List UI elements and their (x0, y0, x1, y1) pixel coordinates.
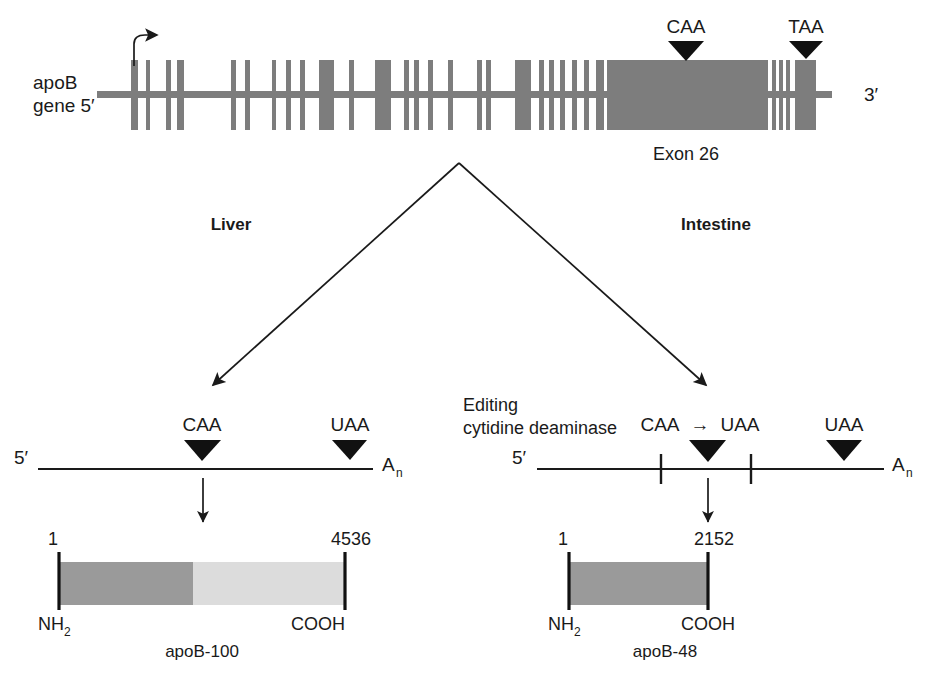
apob48-start-number: 1 (558, 529, 568, 549)
branch-arrows: Liver Intestine (211, 163, 751, 385)
exon-bar (146, 60, 150, 130)
apob48-c-terminus-label: COOH (681, 614, 735, 634)
gene-caa-triangle-icon (668, 41, 704, 61)
gene-caa-label: CAA (666, 16, 705, 37)
branch-arrow-liver (213, 163, 459, 385)
apob100-bar-dark-segment (59, 562, 193, 605)
editing-enzyme-label-line2: cytidine deaminase (463, 418, 617, 438)
liver-uaa-triangle-icon (332, 440, 367, 460)
exon-bar (549, 60, 554, 130)
apob100-start-number: 1 (48, 529, 58, 549)
gene-taa-label: TAA (788, 16, 824, 37)
intestine-edited-codon-triangle-icon (689, 440, 726, 462)
exon-bar (539, 60, 544, 130)
gene-diagram: CAA TAA apoB gene 5′ 3′ Exon 26 (33, 16, 879, 164)
exon-bar (560, 60, 565, 130)
liver-caa-triangle-icon (184, 440, 221, 461)
intestine-edit-arrow-icon: → (691, 414, 710, 435)
exon-bar (486, 60, 491, 130)
liver-polya-label: A (382, 454, 395, 475)
intestine-pathway: Editing cytidine deaminase 5′ A n CAA → … (463, 395, 913, 661)
exon-bar (572, 60, 577, 130)
intestine-polya-subscript: n (906, 466, 913, 480)
liver-five-prime-label: 5′ (14, 447, 29, 468)
gene-three-prime-label: 3′ (864, 84, 879, 105)
apob48-n-terminus-label: NH (548, 614, 574, 634)
exon-bar (779, 60, 783, 130)
exon-bar (319, 60, 334, 130)
diagram-canvas: CAA TAA apoB gene 5′ 3′ Exon 26 Liver In… (0, 0, 925, 673)
intestine-edit-to-label: UAA (720, 414, 759, 435)
exon-bar (272, 60, 276, 130)
apob48-n-terminus-subscript: 2 (574, 625, 581, 639)
gene-taa-triangle-icon (789, 41, 823, 59)
apob100-n-terminus-label: NH (38, 614, 64, 634)
exon-bar (245, 60, 250, 130)
exon-bar (795, 60, 816, 130)
exon-bar (231, 60, 236, 130)
liver-uaa-label: UAA (330, 414, 369, 435)
exon-bar (404, 60, 409, 130)
branch-label-liver: Liver (211, 215, 252, 234)
branch-label-intestine: Intestine (681, 215, 751, 234)
liver-caa-label: CAA (182, 414, 221, 435)
exon-bar (286, 60, 291, 130)
exon-bar (131, 60, 138, 130)
apob100-n-terminus-subscript: 2 (64, 625, 71, 639)
exon-bar (375, 60, 391, 130)
intestine-edit-from-label: CAA (640, 414, 679, 435)
intestine-five-prime-label: 5′ (512, 447, 527, 468)
liver-pathway: 5′ A n CAA UAA 1 4536 NH 2 COOH (14, 414, 403, 661)
apob100-bar-light-segment (193, 562, 345, 605)
intestine-uaa-label: UAA (824, 414, 863, 435)
gene-label-line2: gene 5′ (33, 95, 95, 116)
exon-26-label: Exon 26 (653, 144, 719, 164)
branch-arrow-intestine (459, 163, 706, 385)
exon-bar (300, 60, 305, 130)
exon-bar (477, 60, 482, 130)
gene-label-line1: apoB (33, 72, 77, 93)
exon-bar (448, 60, 453, 130)
editing-enzyme-label-line1: Editing (463, 395, 518, 415)
apob100-c-terminus-label: COOH (291, 614, 345, 634)
apob48-end-number: 2152 (694, 529, 734, 549)
exon-bar (596, 60, 604, 130)
intestine-polya-label: A (892, 454, 905, 475)
exon-bar (515, 60, 531, 130)
liver-polya-subscript: n (396, 466, 403, 480)
exon-bar (349, 60, 354, 130)
intestine-uaa-triangle-icon (826, 440, 862, 461)
exon-bar (414, 60, 419, 130)
apob100-protein-name: apoB-100 (165, 642, 239, 661)
exon-bar (584, 60, 589, 130)
exon-bar (428, 60, 433, 130)
apob100-end-number: 4536 (331, 529, 371, 549)
apob-rna-editing-diagram: CAA TAA apoB gene 5′ 3′ Exon 26 Liver In… (0, 0, 925, 673)
exon-bar (772, 60, 776, 130)
exon-bar (786, 60, 790, 130)
exon-bar (177, 60, 184, 130)
apob48-protein-name: apoB-48 (633, 642, 697, 661)
exon-bar (607, 60, 768, 130)
exon-bar (166, 60, 171, 130)
apob48-bar-segment (569, 562, 708, 605)
